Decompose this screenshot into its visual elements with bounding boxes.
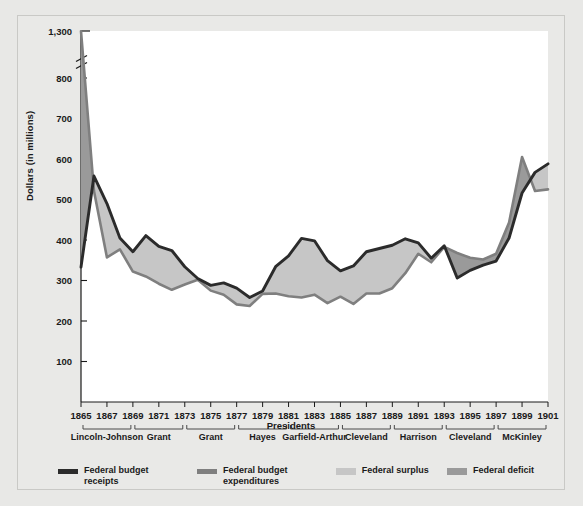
y-tick-label: 800 <box>56 73 72 84</box>
y-tick-label: 400 <box>56 235 72 246</box>
x-axis-title: Presidents <box>18 420 564 431</box>
legend-label-surplus: Federal surplus <box>362 465 429 476</box>
x-axis-ticks <box>81 402 548 407</box>
president-label: Grant <box>199 432 223 442</box>
y-tick-label: 600 <box>56 154 72 165</box>
president-label: Lincoln-Johnson <box>71 432 144 442</box>
president-label: Harrison <box>400 432 437 442</box>
legend-label-expenditures-line1: Federal budget <box>223 465 288 476</box>
president-label: McKinley <box>502 432 542 442</box>
legend-label-receipts-line2: receipts <box>84 476 149 487</box>
legend-item-expenditures: Federal budget expenditures <box>197 465 336 487</box>
president-label: Grant <box>147 432 171 442</box>
y-tick-label: 100 <box>56 356 72 367</box>
president-label: Garfield-Arthur <box>282 432 347 442</box>
y-tick-label: 500 <box>56 194 72 205</box>
chart-frame: Dollars (in millions) 100200300400500600… <box>17 15 565 490</box>
legend-label-expenditures-line2: expenditures <box>223 476 288 487</box>
president-label: Cleveland <box>345 432 388 442</box>
president-label: Cleveland <box>449 432 492 442</box>
legend-label-deficit: Federal deficit <box>473 465 534 476</box>
y-tick-label: 700 <box>56 113 72 124</box>
legend-swatch-expenditures <box>197 469 217 474</box>
president-label: Hayes <box>249 432 276 442</box>
y-tick-label: 1,300 <box>48 26 72 37</box>
legend-label-deficit-line1: Federal deficit <box>473 465 534 476</box>
legend-swatch-receipts <box>58 469 78 474</box>
legend-swatch-deficit <box>447 468 467 475</box>
legend-label-receipts-line1: Federal budget <box>84 465 149 476</box>
chart-legend: Federal budget receipts Federal budget e… <box>58 465 558 487</box>
legend-item-deficit: Federal deficit <box>447 465 558 476</box>
legend-swatch-surplus <box>336 468 356 475</box>
legend-item-receipts: Federal budget receipts <box>58 465 197 487</box>
legend-label-expenditures: Federal budget expenditures <box>223 465 288 487</box>
legend-label-surplus-line1: Federal surplus <box>362 465 429 476</box>
legend-label-receipts: Federal budget receipts <box>84 465 149 487</box>
y-tick-label: 300 <box>56 275 72 286</box>
legend-item-surplus: Federal surplus <box>336 465 447 476</box>
y-tick-label: 200 <box>56 316 72 327</box>
